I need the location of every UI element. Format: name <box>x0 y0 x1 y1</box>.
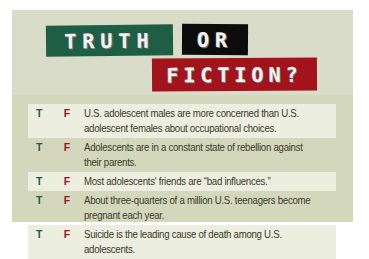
truth-or-fiction-panel: TRUTH OR FICTION? T F U.S. adolescent ma… <box>12 10 353 222</box>
statement-text: About three-quarters of a million U.S. t… <box>84 193 315 223</box>
true-option[interactable]: T <box>36 193 48 208</box>
true-option[interactable]: T <box>36 227 48 242</box>
false-option[interactable]: F <box>64 140 76 155</box>
false-option[interactable]: F <box>64 193 76 208</box>
statement-row: T F Suicide is the leading cause of deat… <box>28 225 336 259</box>
false-option[interactable]: F <box>64 227 76 242</box>
title-truth-label: TRUTH <box>46 24 173 56</box>
statement-text: Adolescents are in a constant state of r… <box>84 140 315 170</box>
false-option[interactable]: F <box>64 174 76 189</box>
title-or-label: OR <box>182 24 248 55</box>
statement-text: U.S. adolescent males are more concerned… <box>84 106 315 136</box>
statement-text: Most adolescents' friends are “bad influ… <box>84 174 315 189</box>
statement-list: T F U.S. adolescent males are more conce… <box>28 104 336 259</box>
statement-row: T F U.S. adolescent males are more conce… <box>28 104 336 138</box>
true-option[interactable]: T <box>36 140 48 155</box>
statement-text: Suicide is the leading cause of death am… <box>84 227 315 257</box>
title-fiction-label: FICTION? <box>152 57 317 91</box>
true-option[interactable]: T <box>36 174 48 189</box>
true-option[interactable]: T <box>36 106 48 121</box>
statement-row: T F Adolescents are in a constant state … <box>28 138 336 172</box>
statement-row: T F Most adolescents' friends are “bad i… <box>28 172 336 191</box>
false-option[interactable]: F <box>64 106 76 121</box>
statement-row: T F About three-quarters of a million U.… <box>28 191 336 225</box>
